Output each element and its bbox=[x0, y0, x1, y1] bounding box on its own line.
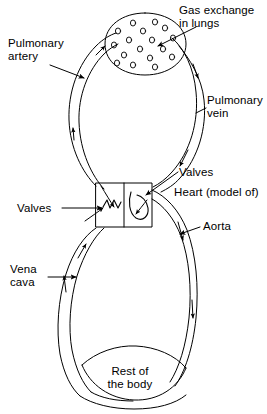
diagram-page: Pulmonary artery Gas exchange in lungs P… bbox=[0, 0, 267, 414]
label-heart: Heart (model of) bbox=[174, 186, 259, 199]
label-gas-exchange: Gas exchange in lungs bbox=[179, 4, 254, 30]
heart-right-valve bbox=[129, 192, 148, 219]
aorta-vessel bbox=[152, 190, 197, 386]
label-vena-cava: Vena cava bbox=[10, 263, 37, 289]
label-valves-right: Valves bbox=[179, 166, 213, 179]
label-valves-left: Valves bbox=[17, 202, 51, 215]
pulmonary-vein-flow-arrows bbox=[180, 64, 198, 166]
pulmonary-artery-vessel bbox=[69, 33, 118, 189]
label-aorta: Aorta bbox=[203, 220, 231, 233]
label-rest-of-body: Rest of the body bbox=[93, 365, 167, 391]
aorta-leader bbox=[180, 227, 200, 234]
alveoli-circles bbox=[111, 19, 175, 70]
aorta-flow-arrows bbox=[178, 222, 193, 318]
pulmonary-artery-flow-arrows bbox=[73, 46, 105, 140]
label-pulmonary-vein: Pulmonary vein bbox=[207, 94, 263, 120]
body-loop-outline bbox=[80, 392, 186, 409]
label-pulmonary-artery: Pulmonary artery bbox=[8, 37, 64, 63]
